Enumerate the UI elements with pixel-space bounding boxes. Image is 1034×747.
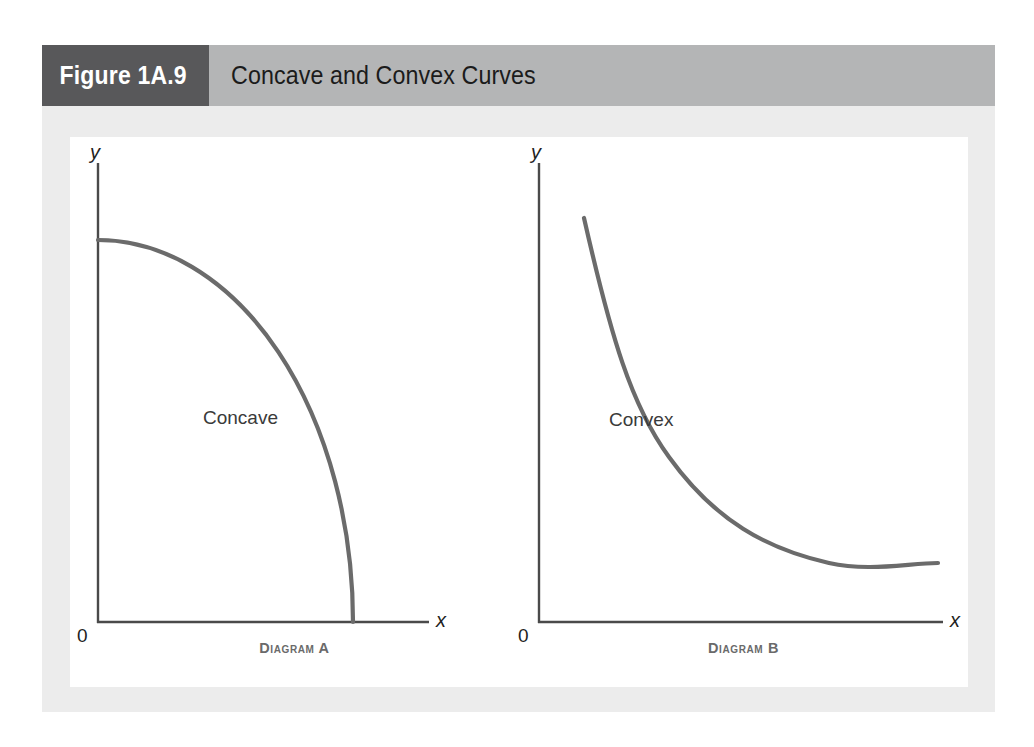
diagram-a-caption: Diagram A [70,640,519,656]
figure-title: Concave and Convex Curves [231,45,536,106]
diagram-b: y x 0 Convex Diagram B [519,137,968,687]
y-axis-label: y [90,141,100,164]
diagram-b-caption: Diagram B [519,640,968,656]
diagram-b-plot [519,137,968,687]
convex-curve-label: Convex [609,409,673,431]
concave-curve [98,240,353,622]
diagram-a: y x 0 Concave Diagram A [70,137,519,687]
y-axis-label: y [531,141,541,164]
x-axis-label: x [436,609,446,632]
figure-panel: y x 0 Concave Diagram A y x 0 [70,137,968,687]
figure-body: y x 0 Concave Diagram A y x 0 [42,106,995,712]
x-axis-label: x [950,609,960,632]
diagram-a-plot [70,137,519,687]
figure-block: Figure 1A.9 Concave and Convex Curves y … [42,45,995,712]
figure-number-block: Figure 1A.9 [42,45,209,106]
convex-curve [584,218,938,567]
figure-header: Figure 1A.9 Concave and Convex Curves [42,45,995,106]
concave-curve-label: Concave [203,407,278,429]
figure-number-label: Figure 1A.9 [42,61,187,90]
